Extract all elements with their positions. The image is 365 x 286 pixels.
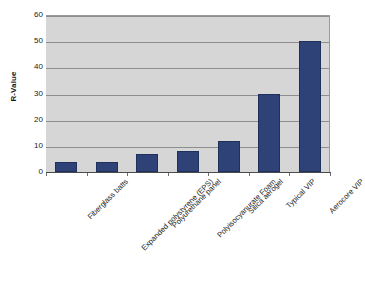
x-axis-category-labels: Fiberglass battsExpanded polystyrene (EP… — [46, 177, 345, 286]
x-axis-label: Fiberglass batts — [86, 177, 130, 221]
y-tick-label: 20 — [24, 116, 43, 124]
x-axis-label: Aerocore VIP — [327, 177, 365, 215]
bar-slot — [168, 16, 209, 172]
bar[interactable] — [136, 154, 158, 172]
y-tick-label: 0 — [24, 168, 43, 176]
bar[interactable] — [258, 94, 280, 173]
y-axis-tick-labels: 0102030405060 — [24, 15, 43, 172]
bar-slot — [127, 16, 168, 172]
x-axis-label: Typical VIP — [284, 177, 317, 210]
x-tick-mark — [330, 173, 331, 176]
y-tick-label: 10 — [24, 142, 43, 150]
x-tick-mark — [249, 173, 250, 176]
y-axis-title: R-Value — [0, 0, 26, 172]
x-tick-mark — [46, 173, 47, 176]
bar[interactable] — [218, 141, 240, 172]
bar[interactable] — [299, 41, 321, 172]
y-axis-title-text: R-Value — [9, 71, 18, 101]
bar[interactable] — [55, 162, 77, 172]
bar[interactable] — [96, 162, 118, 172]
x-tick-mark — [87, 173, 88, 176]
x-tick-mark — [168, 173, 169, 176]
y-tick-label: 50 — [24, 37, 43, 45]
bar-slot — [87, 16, 128, 172]
y-tick-label: 40 — [24, 63, 43, 71]
x-tick-mark — [289, 173, 290, 176]
bar-slot — [46, 16, 87, 172]
bar-slot — [289, 16, 330, 172]
bars-layer — [46, 16, 329, 172]
x-axis-label: Polyurethane panel — [171, 177, 224, 230]
x-tick-mark — [127, 173, 128, 176]
bar-slot — [249, 16, 290, 172]
bar-slot — [208, 16, 249, 172]
plot-area — [46, 15, 330, 172]
bar[interactable] — [177, 151, 199, 172]
y-tick-label: 30 — [24, 90, 43, 98]
y-tick-label: 60 — [24, 11, 43, 19]
